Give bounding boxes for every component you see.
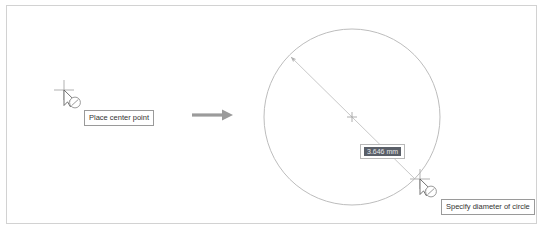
right-arrow-icon bbox=[192, 110, 233, 121]
dimension-input-box[interactable]: 3.646 mm bbox=[360, 144, 405, 159]
cursor-left bbox=[54, 80, 80, 108]
cursor-right bbox=[410, 169, 436, 197]
tooltip-place-center-point: Place center point bbox=[84, 110, 154, 126]
circle-tool-badge-left bbox=[70, 97, 81, 108]
dimension-value[interactable]: 3.646 mm bbox=[364, 147, 401, 156]
screenshot-canvas: Place center point Specify diameter of c… bbox=[0, 0, 545, 233]
diameter-line bbox=[291, 57, 415, 179]
tooltip-specify-diameter: Specify diameter of circle bbox=[441, 199, 535, 215]
circle-tool-badge-right bbox=[426, 186, 437, 197]
